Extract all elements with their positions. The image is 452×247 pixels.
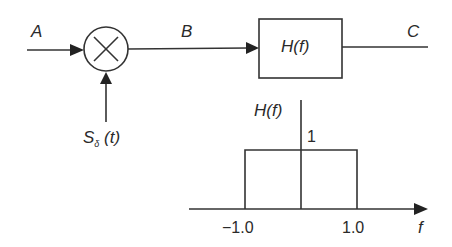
f-axis-arrow xyxy=(414,203,428,215)
arrow-into-filter xyxy=(246,42,259,54)
line-b xyxy=(128,48,248,49)
block-diagram xyxy=(0,0,452,247)
height-label: 1 xyxy=(307,128,316,146)
tick-label-neg1: −1.0 xyxy=(222,219,254,237)
arrow-up-into-multiplier xyxy=(100,72,112,84)
signal-label-c: C xyxy=(407,22,419,42)
filter-label: H(f) xyxy=(281,37,309,57)
sampler-label: Sδ (t) xyxy=(83,128,120,149)
arrow-into-multiplier xyxy=(70,44,84,56)
graph-x-label: f xyxy=(418,218,423,238)
signal-label-a: A xyxy=(31,22,42,42)
tick-label-pos1: 1.0 xyxy=(342,219,364,237)
signal-label-b: B xyxy=(181,22,192,42)
graph-y-label: H(f) xyxy=(254,101,282,121)
